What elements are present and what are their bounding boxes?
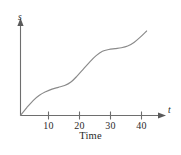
x-axis-title: Time: [0, 130, 181, 142]
chart-figure: s t 10 20 30 40 Time: [0, 0, 181, 155]
x-axis-label: t: [168, 105, 171, 115]
y-axis-label: s: [18, 12, 22, 22]
x-axis-arrowhead: [158, 112, 166, 118]
data-curve-distance: [21, 31, 147, 115]
